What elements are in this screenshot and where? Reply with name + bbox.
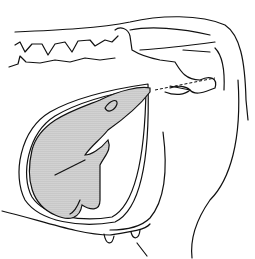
flank [192,80,239,258]
udder-line [110,132,165,230]
fetus [29,88,150,219]
pelvis [115,28,216,93]
leg-line [137,243,147,256]
spine-lower [9,56,115,67]
birth-canal [155,78,215,90]
anatomical-illustration [0,0,255,259]
spine [15,36,118,55]
sacrum [130,28,224,90]
